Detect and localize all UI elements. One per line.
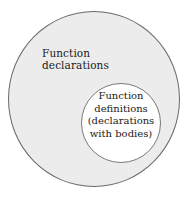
outer-label-line-1: Function	[42, 47, 109, 59]
function-definitions-label: Function definitions (declarations with …	[81, 90, 161, 140]
inner-label-line-2: definitions	[81, 103, 161, 116]
euler-diagram: Function declarations Function definitio…	[0, 0, 188, 198]
inner-label-line-4: with bodies)	[81, 128, 161, 141]
outer-label-line-2: declarations	[42, 59, 109, 71]
function-declarations-label: Function declarations	[42, 47, 109, 71]
inner-label-line-1: Function	[81, 90, 161, 103]
inner-label-line-3: (declarations	[81, 115, 161, 128]
